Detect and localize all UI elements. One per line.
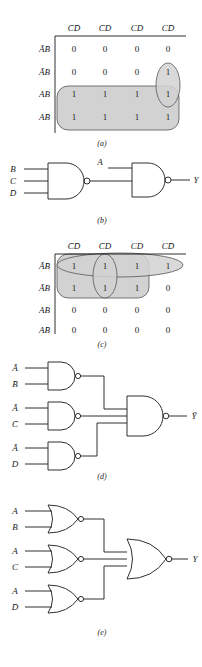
- kmap-a-cell-r4c3: 1: [135, 112, 140, 122]
- kmap-c-cell-r2c2: 1: [103, 283, 108, 293]
- nand-gate-2-bubble: [165, 177, 171, 183]
- kmap-a-cell-r1c1: 0: [72, 44, 77, 54]
- circuit-b-input-label-dbar: D̄: [9, 188, 17, 198]
- panel-b: B C D̄ A Y (b): [0, 155, 202, 230]
- circuit-b-input-label-c: C: [10, 176, 17, 186]
- kmap-a-row-header-4: AB̄: [38, 112, 50, 122]
- nor-gate-1-bubble: [78, 516, 83, 521]
- nor-gate-4-body: [127, 539, 166, 579]
- panel-a: C̄D̄ C̄D CD CD̄ ĀB̄ ĀB AB AB̄ 0 0 0 0 …: [0, 0, 202, 150]
- kmap-a-cell-r2c4: 1: [166, 67, 171, 77]
- kmap-a-cell-r1c4: 0: [166, 44, 171, 54]
- kmap-c-cell-r4c3: 0: [135, 325, 140, 335]
- circuit-b-svg: B C D̄ A Y (b): [0, 155, 202, 230]
- kmap-c-row-header-4: AB̄: [38, 325, 50, 335]
- kmap-a-row-header-2: ĀB: [38, 67, 50, 77]
- kmap-a-col-header-3: CD: [131, 23, 144, 33]
- panel-d-caption: (d): [97, 472, 107, 481]
- circuit-e-input-label-1: A: [11, 506, 18, 516]
- kmap-c-cell-r4c2: 0: [103, 325, 108, 335]
- nor-gate-2-bubble: [78, 556, 83, 561]
- kmap-a-cell-r2c2: 0: [103, 67, 108, 77]
- nand-gate-3-body: [48, 442, 75, 470]
- circuit-e-input-label-4: C: [12, 562, 19, 572]
- kmap-a-row-header-3: AB: [38, 89, 50, 99]
- nand-gate-1-body: [48, 163, 84, 199]
- kmap-c-col-header-3: CD: [131, 241, 144, 251]
- panel-b-caption: (b): [97, 216, 107, 225]
- nand-gate-4-bubble: [163, 413, 169, 419]
- kmap-a-cell-r2c3: 0: [135, 67, 140, 77]
- kmap-a-cell-r3c4: 1: [166, 89, 171, 99]
- kmap-c-cell-r1c4: 1: [166, 261, 171, 271]
- kmap-a-cell-r4c4: 1: [166, 112, 171, 122]
- nor-gate-3-body: [48, 585, 78, 613]
- circuit-e-svg: A B A C A D̄ Y (e): [0, 495, 202, 647]
- circuit-d-input-label-6: D: [11, 459, 19, 469]
- circuit-b-input-label-a: A: [96, 157, 103, 167]
- panel-c-caption: (c): [98, 340, 107, 349]
- circuit-d-svg: Ā B̄ Ā C̄ Ā D Ȳ (d): [0, 352, 202, 480]
- panel-d: Ā B̄ Ā C̄ Ā D Ȳ (d): [0, 352, 202, 480]
- nor-gate-2-body: [48, 545, 78, 573]
- panel-e-caption: (e): [98, 628, 107, 637]
- kmap-c-col-header-4: CD̄: [162, 241, 175, 251]
- kmap-c-row-header-3: AB: [38, 305, 50, 315]
- nand-gate-2-body: [48, 402, 75, 430]
- kmap-c-cell-r1c1: 1: [72, 261, 77, 271]
- circuit-d-output-label: Ȳ: [191, 411, 197, 421]
- nor-gate-4-bubble: [166, 556, 172, 562]
- kmap-c-cell-r4c4: 0: [166, 325, 171, 335]
- kmap-a-cell-r1c3: 0: [135, 44, 140, 54]
- circuit-d-input-label-1: Ā: [11, 363, 18, 373]
- nor-gate-1-body: [48, 505, 78, 533]
- nand-gate-1-bubble: [75, 373, 80, 378]
- circuit-e-input-label-2: B: [12, 522, 18, 532]
- kmap-c-col-header-2: C̄D: [99, 241, 112, 251]
- kmap-c-cell-r3c4: 0: [166, 305, 171, 315]
- kmap-c-cell-r2c3: 1: [135, 283, 140, 293]
- kmap-c-row-header-1: ĀB̄: [38, 261, 50, 271]
- kmap-a-col-header-1: C̄D̄: [68, 23, 81, 33]
- circuit-d-input-label-5: Ā: [11, 443, 18, 453]
- circuit-d-input-label-3: Ā: [11, 403, 18, 413]
- kmap-c-cell-r2c1: 1: [72, 283, 77, 293]
- panel-e: A B A C A D̄ Y (e): [0, 495, 202, 647]
- nand-gate-1-bubble: [84, 178, 90, 184]
- kmap-c-cell-r3c1: 0: [72, 305, 77, 315]
- circuit-b-input-label-b: B: [10, 164, 16, 174]
- kmap-c-cell-r2c4: 0: [166, 283, 171, 293]
- kmap-a-svg: C̄D̄ C̄D CD CD̄ ĀB̄ ĀB AB AB̄ 0 0 0 0 …: [0, 0, 202, 150]
- kmap-a-cell-r3c3: 1: [135, 89, 140, 99]
- kmap-a-row-header-1: ĀB̄: [38, 44, 50, 54]
- kmap-c-cell-r3c3: 0: [135, 305, 140, 315]
- kmap-c-cell-r3c2: 0: [103, 305, 108, 315]
- kmap-c-cell-r4c1: 0: [72, 325, 77, 335]
- circuit-e-input-label-6: D̄: [11, 602, 19, 612]
- panel-a-caption: (a): [97, 139, 107, 148]
- circuit-d-input-label-2: B̄: [12, 379, 18, 389]
- nand-gate-3-bubble: [75, 453, 80, 458]
- nand-gate-2-body: [132, 163, 165, 197]
- circuit-e-input-label-5: A: [11, 586, 18, 596]
- kmap-a-cell-r4c1: 1: [72, 112, 77, 122]
- kmap-c-svg: C̄D̄ C̄D CD CD̄ ĀB̄ ĀB AB AB̄ 1 1 1 1 …: [0, 232, 202, 350]
- kmap-a-cell-r2c1: 0: [72, 67, 77, 77]
- kmap-a-cell-r3c2: 1: [103, 89, 108, 99]
- nand-gate-1-body: [48, 362, 75, 390]
- kmap-c-col-header-1: C̄D̄: [68, 241, 81, 251]
- kmap-c-cell-r1c2: 1: [103, 261, 108, 271]
- nand-gate-2-bubble: [75, 413, 80, 418]
- circuit-e-input-label-3: A: [11, 546, 18, 556]
- nand-gate-4-body: [127, 396, 163, 436]
- kmap-c-row-header-2: ĀB: [38, 283, 50, 293]
- kmap-a-cell-r4c2: 1: [103, 112, 108, 122]
- circuit-b-output-label: Y: [193, 175, 199, 185]
- nor-gate-3-bubble: [78, 596, 83, 601]
- kmap-c-cell-r1c3: 1: [135, 261, 140, 271]
- kmap-a-col-header-4: CD̄: [162, 23, 175, 33]
- kmap-a-cell-r1c2: 0: [103, 44, 108, 54]
- circuit-e-output-label: Y: [192, 554, 198, 564]
- circuit-d-input-label-4: C̄: [12, 419, 19, 429]
- kmap-a-col-header-2: C̄D: [99, 23, 112, 33]
